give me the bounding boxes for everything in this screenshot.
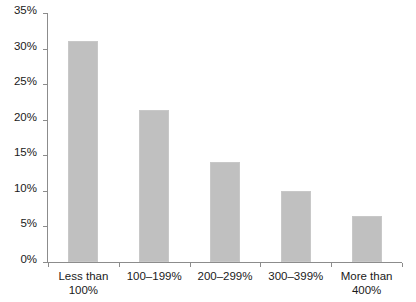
y-axis-tick-label: 25% bbox=[14, 76, 37, 88]
bar bbox=[139, 110, 169, 262]
x-axis-line bbox=[47, 262, 402, 263]
category-label-line-2: 400% bbox=[331, 283, 402, 297]
bar-slot bbox=[48, 13, 119, 262]
y-axis-tick-label: 0% bbox=[20, 254, 37, 266]
bar-slot bbox=[119, 13, 190, 262]
bar-slot bbox=[331, 13, 402, 262]
bar-chart: 0%5%10%15%20%25%30%35% Less than100%100–… bbox=[0, 0, 416, 302]
bar bbox=[210, 162, 240, 262]
x-axis-tick-mark bbox=[331, 263, 332, 267]
category-label-line-2: 100% bbox=[48, 283, 119, 297]
x-axis-tick-mark bbox=[402, 263, 403, 267]
x-axis-category-label: Less than100% bbox=[48, 269, 119, 297]
category-label-line-1: More than bbox=[341, 270, 393, 282]
x-axis-category-label: More than400% bbox=[331, 269, 402, 297]
y-axis-tick-label: 10% bbox=[14, 183, 37, 195]
category-label-line-1: 200–299% bbox=[197, 270, 252, 282]
y-axis-tick-label: 15% bbox=[14, 147, 37, 159]
y-axis-tick-label: 20% bbox=[14, 112, 37, 124]
x-axis-tick-mark bbox=[190, 263, 191, 267]
category-label-line-1: Less than bbox=[58, 270, 108, 282]
x-axis-tick-mark bbox=[48, 263, 49, 267]
x-axis-tick-mark bbox=[119, 263, 120, 267]
category-label-line-1: 300–399% bbox=[268, 270, 323, 282]
y-axis-tick-label: 30% bbox=[14, 41, 37, 53]
plot-area bbox=[48, 13, 402, 262]
x-axis-category-label: 200–299% bbox=[190, 269, 261, 283]
y-axis-tick-label: 35% bbox=[14, 5, 37, 17]
bar bbox=[281, 191, 311, 262]
y-axis-tick-label: 5% bbox=[20, 218, 37, 230]
bar bbox=[68, 41, 98, 262]
category-label-line-1: 100–199% bbox=[127, 270, 182, 282]
x-axis-category-label: 300–399% bbox=[260, 269, 331, 283]
x-axis-category-label: 100–199% bbox=[119, 269, 190, 283]
x-axis-tick-mark bbox=[260, 263, 261, 267]
bar-slot bbox=[260, 13, 331, 262]
bar-slot bbox=[190, 13, 261, 262]
bar bbox=[352, 216, 382, 262]
